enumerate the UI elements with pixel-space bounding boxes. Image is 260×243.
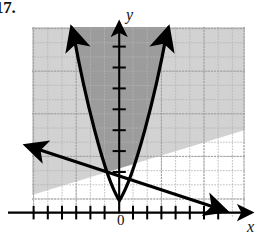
graph-plot — [0, 0, 260, 243]
coordinate-plane-svg — [0, 0, 260, 243]
origin-label: 0 — [117, 213, 125, 228]
y-axis-label: y — [126, 7, 133, 23]
figure-root: 17. — [0, 0, 260, 243]
x-axis-label: x — [247, 219, 254, 235]
